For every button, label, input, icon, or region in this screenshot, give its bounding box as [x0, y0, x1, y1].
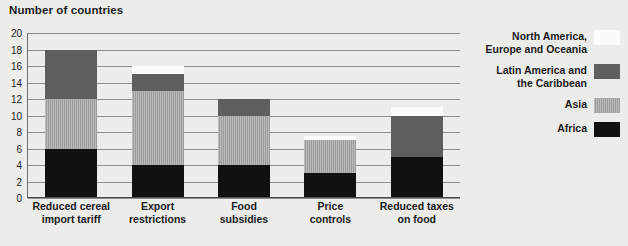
y-tick-label: 8 [16, 127, 22, 138]
legend-item[interactable]: North America, Europe and Oceania [470, 30, 620, 55]
y-tick-label: 0 [16, 193, 22, 204]
legend-label: Asia [565, 98, 587, 111]
bar-segment[interactable] [132, 66, 184, 74]
legend-label: Africa [557, 122, 587, 135]
bar-segment[interactable] [391, 107, 443, 115]
bar-segment[interactable] [304, 140, 356, 173]
x-axis-label: Reduced taxeson food [374, 200, 460, 226]
bar-segment[interactable] [132, 91, 184, 165]
y-tick-label: 18 [11, 44, 22, 55]
bar-segment[interactable] [45, 50, 97, 100]
bar-segment[interactable] [304, 173, 356, 198]
x-axis-label: Exportrestrictions [114, 200, 200, 226]
plot-area: 02468101214161820 [28, 33, 460, 198]
y-tick-label: 12 [11, 94, 22, 105]
x-axis-line [27, 197, 460, 198]
africa-swatch [594, 122, 620, 137]
x-axis-label: Pricecontrols [287, 200, 373, 226]
bar-segment[interactable] [132, 74, 184, 91]
bar-segment[interactable] [218, 165, 270, 198]
latin-america-swatch [594, 64, 620, 79]
chart-title: Number of countries [9, 4, 123, 16]
bar-segment[interactable] [391, 116, 443, 157]
legend-item[interactable]: Asia [470, 98, 620, 113]
legend-item[interactable]: Latin America and the Caribbean [470, 64, 620, 89]
x-axis-labels: Reduced cerealimport tariffExportrestric… [28, 200, 460, 240]
bar-group[interactable] [45, 50, 97, 199]
legend-label: North America, Europe and Oceania [483, 30, 587, 55]
stacked-bar-chart: Number of countries 02468101214161820 Re… [0, 0, 628, 246]
bar-group[interactable] [218, 99, 270, 198]
y-tick-label: 10 [11, 110, 22, 121]
bar-segment[interactable] [45, 149, 97, 199]
y-tick-label: 14 [11, 77, 22, 88]
legend-item[interactable]: Africa [470, 122, 620, 137]
bar-segment[interactable] [218, 99, 270, 116]
legend-label: Latin America and the Caribbean [483, 64, 587, 89]
y-tick-label: 2 [16, 176, 22, 187]
bar-segment[interactable] [45, 99, 97, 149]
y-axis-line [27, 33, 28, 198]
bar-group[interactable] [304, 136, 356, 198]
bar-group[interactable] [391, 107, 443, 198]
y-tick-label: 16 [11, 61, 22, 72]
y-tick-label: 20 [11, 28, 22, 39]
gridline [28, 198, 460, 199]
north-america-swatch [594, 30, 620, 45]
bars-layer [28, 33, 460, 198]
x-axis-label: Reduced cerealimport tariff [28, 200, 114, 226]
y-tick-label: 6 [16, 143, 22, 154]
x-axis-label: Foodsubsidies [201, 200, 287, 226]
bar-segment[interactable] [391, 157, 443, 198]
bar-segment[interactable] [132, 165, 184, 198]
chart-legend: North America, Europe and OceaniaLatin A… [470, 30, 620, 146]
asia-swatch [594, 98, 620, 113]
bar-segment[interactable] [218, 116, 270, 166]
y-tick-label: 4 [16, 160, 22, 171]
bar-group[interactable] [132, 66, 184, 198]
